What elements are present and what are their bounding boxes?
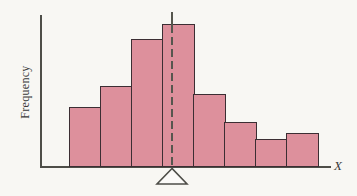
histogram-bar (69, 107, 102, 167)
histogram-bar (193, 94, 226, 167)
histogram-bar (162, 24, 195, 167)
histogram-bar (131, 39, 164, 167)
y-axis-line (40, 15, 42, 168)
mean-dashed-line (171, 25, 173, 167)
x-axis-label: X (334, 158, 342, 174)
histogram-bar (224, 122, 257, 167)
mean-line-solid-segment (171, 12, 173, 25)
fulcrum-triangle-icon (153, 167, 191, 186)
histogram-bar (255, 139, 288, 167)
y-axis-label: Frequency (18, 65, 33, 118)
histogram-bar (100, 86, 133, 167)
histogram-bar (286, 133, 319, 167)
histogram-figure: Frequency X (0, 0, 357, 196)
